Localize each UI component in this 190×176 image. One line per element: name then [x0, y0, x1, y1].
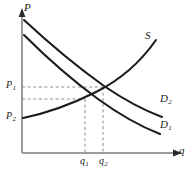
demand-d1-subscript: 1 — [168, 124, 172, 132]
chart-canvas — [0, 0, 190, 176]
demand-curve-d1 — [24, 35, 160, 134]
guide-lines-group — [22, 87, 103, 153]
demand-d2-subscript: 2 — [168, 98, 172, 106]
supply-curve-label: S — [145, 30, 151, 41]
y-axis-label: P — [24, 2, 31, 13]
demand-curve-d2-label: D2 — [160, 93, 171, 104]
supply-demand-figure: P q S D2 D1 P1 P2 q1 q2 — [0, 0, 190, 176]
quantity-q1-subscript: 1 — [85, 160, 89, 168]
price-tick-p2: P2 — [6, 111, 16, 121]
price-p1-subscript: 1 — [12, 84, 16, 92]
price-p2-subscript: 2 — [12, 115, 16, 123]
price-tick-p1: P1 — [6, 80, 16, 90]
demand-curve-d1-label: D1 — [160, 119, 171, 130]
quantity-tick-q2: q2 — [99, 156, 108, 166]
quantity-tick-q1: q1 — [80, 156, 89, 166]
demand-d1-base: D — [160, 118, 168, 130]
x-axis-label: q — [179, 145, 185, 156]
demand-d2-base: D — [160, 92, 168, 104]
quantity-q2-subscript: 2 — [104, 160, 108, 168]
demand-curve-d2 — [24, 20, 162, 117]
